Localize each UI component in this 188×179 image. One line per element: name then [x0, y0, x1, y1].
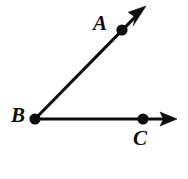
ray-ba [35, 6, 146, 119]
point-dot-c [137, 113, 148, 124]
point-dot-b [29, 113, 40, 124]
geometry-figure: A B C [0, 0, 188, 179]
point-label-c: C [133, 128, 147, 149]
point-dot-a [116, 24, 127, 35]
point-label-b: B [11, 105, 25, 126]
ray-bc [35, 112, 177, 126]
point-label-a: A [93, 13, 107, 34]
